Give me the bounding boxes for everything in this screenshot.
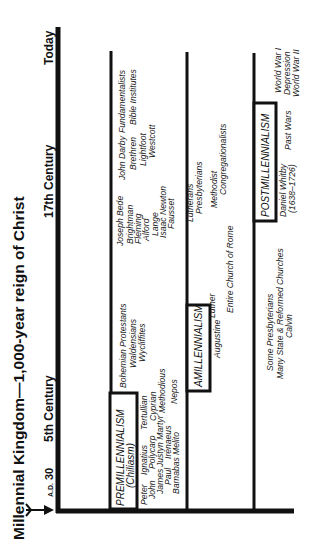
name-past-wars: Past Wars [283, 110, 293, 150]
name-westcott: Westcott [147, 124, 157, 158]
name-entire-church-of-rome: Entire Church of Rome [225, 225, 235, 313]
name-fausset: Fausset [166, 198, 176, 229]
millennial-views-diagram: Millennial Kingdom—1,000-year reign of C… [0, 0, 317, 553]
name-calvin: Calvin [284, 314, 294, 338]
name-bohemian-protestants: Bohemian Protestants [118, 303, 128, 388]
name-fundamentalists: Fundamentalists [117, 69, 127, 133]
marker-17th-century: 17th Century [42, 144, 56, 218]
name-john-darby: John Darby [117, 135, 127, 181]
name-many-state-reformed-churches: Many State & Reformed Churches [275, 247, 285, 379]
name-whitby-dates: (1638–1726) [287, 164, 297, 213]
marker-today: Today [42, 30, 56, 65]
postmillennialism-label: POSTMILLENNIALISM [260, 113, 271, 217]
amillennialism-label: AMILLENNIALISM [193, 304, 204, 388]
name-world-war-ii: World War II [291, 49, 301, 97]
arrow-icon [26, 504, 54, 516]
name-methodious: Methodious [157, 368, 167, 413]
start-year: 30 [43, 468, 55, 480]
marker-5th-century: 5th Century [42, 375, 56, 442]
name-wycliffites: Wycliffites [137, 323, 147, 362]
premillennialism-sublabel: (Chiliasm) [125, 443, 136, 488]
name-some-presbyterians: Some Presbyterians [265, 293, 275, 371]
name-luther: Luther [207, 292, 217, 318]
name-bible-institutes: Bible Institutes [128, 68, 138, 125]
diagram-title: Millennial Kingdom—1,000-year reign of C… [10, 196, 27, 540]
name-augustine: Augustine [212, 320, 222, 359]
start-prefix: A.D. [47, 483, 54, 497]
name-melito: Melito [171, 432, 181, 455]
name-presbyterians: Presbyterians [194, 161, 204, 214]
name-nepos: Nepos [169, 378, 179, 404]
name-joseph-bede: Joseph Bede [115, 196, 125, 247]
name-barnabas: Barnabas [171, 457, 181, 494]
name-brethren: Brethren [128, 137, 138, 170]
name-congregationalists: Congregationalists [218, 123, 228, 195]
